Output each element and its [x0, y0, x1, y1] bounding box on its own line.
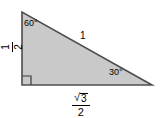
fraction-one-half: 1 2 — [1, 42, 24, 52]
fraction-numerator: 1 — [1, 42, 12, 52]
fraction-sqrt3-over-2: √3 2 — [72, 92, 90, 118]
angle-label-30: 30° — [109, 68, 123, 77]
fraction-denominator: 2 — [76, 106, 86, 118]
fraction-denominator: 2 — [13, 42, 24, 52]
angle-label-60: 60° — [24, 19, 38, 28]
triangle-shape — [22, 12, 152, 85]
radicand: 3 — [80, 93, 88, 104]
left-leg-length-label: 1 2 — [0, 42, 24, 52]
fraction-numerator: √3 — [72, 92, 90, 105]
base-length-label: √3 2 — [72, 88, 90, 118]
hypotenuse-length-label: 1 — [80, 31, 86, 41]
geometry-figure: 60° 30° 1 1 2 √3 2 — [0, 0, 161, 118]
